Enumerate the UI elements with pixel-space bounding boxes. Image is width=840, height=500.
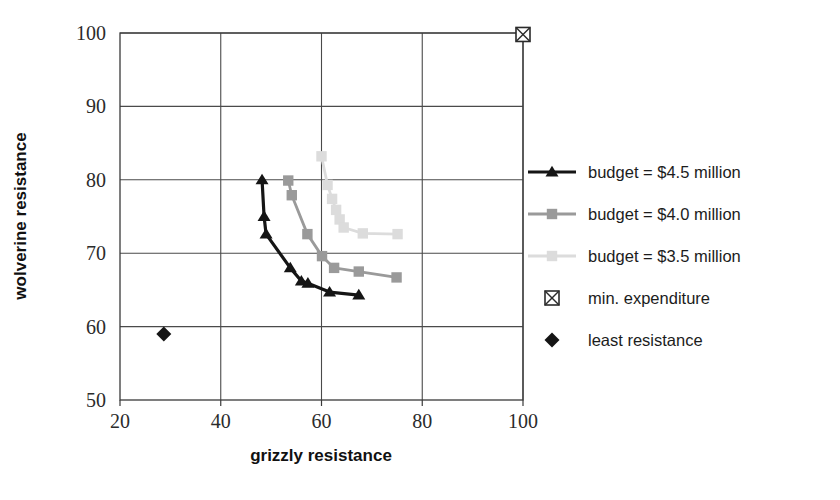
legend-item-label: least resistance	[588, 331, 703, 349]
y-axis-tick-labels: 5060708090100	[76, 22, 106, 411]
chart-figure: 5060708090100 20406080100 grizzly resist…	[0, 0, 840, 500]
data-point-diamond	[545, 333, 560, 348]
legend-item-2: budget = $4.0 million	[528, 205, 741, 223]
data-point-square	[338, 222, 348, 232]
data-point-square	[317, 251, 327, 261]
legend-item-4: min. expenditure	[545, 289, 710, 307]
legend-item-label: budget = $4.5 million	[588, 163, 741, 181]
y-tick-label: 90	[86, 95, 106, 117]
data-point-triangle	[256, 174, 269, 185]
legend-item-label: min. expenditure	[588, 289, 710, 307]
legend-item-3: budget = $3.5 million	[528, 247, 741, 265]
data-point-square	[283, 175, 293, 185]
legend-item-label: budget = $4.0 million	[588, 205, 741, 223]
data-point-square	[327, 194, 337, 204]
data-point-square	[316, 151, 326, 161]
data-point-diamond	[156, 326, 171, 341]
legend-item-label: budget = $3.5 million	[588, 247, 741, 265]
x-tick-label: 20	[110, 410, 130, 432]
legend-item-1: budget = $4.5 million	[528, 163, 741, 181]
y-tick-label: 70	[86, 242, 106, 264]
x-axis-title: grizzly resistance	[250, 446, 392, 465]
chart-legend: budget = $4.5 millionbudget = $4.0 milli…	[528, 163, 741, 349]
data-point-square	[547, 209, 557, 219]
data-point-square	[391, 272, 401, 282]
x-tick-label: 100	[508, 410, 538, 432]
series-3	[316, 151, 402, 239]
data-point-crossed-square	[516, 27, 530, 41]
data-point-square	[392, 229, 402, 239]
y-tick-label: 100	[76, 22, 106, 44]
x-axis-tick-labels: 20406080100	[110, 410, 538, 432]
data-series-layer	[256, 151, 403, 299]
y-axis-title: wolverine resistance	[11, 132, 30, 300]
gridlines	[120, 33, 523, 400]
x-tick-label: 60	[312, 410, 332, 432]
x-axis-tick-marks	[120, 400, 523, 406]
x-tick-label: 80	[412, 410, 432, 432]
data-point-square	[331, 205, 341, 215]
y-tick-label: 50	[86, 389, 106, 411]
data-point-crossed-square	[545, 291, 559, 305]
data-point-square	[354, 266, 364, 276]
data-point-square	[329, 263, 339, 273]
data-point-square	[322, 180, 332, 190]
scatter-plot: 5060708090100 20406080100 grizzly resist…	[0, 0, 840, 500]
legend-item-5: least resistance	[545, 331, 703, 349]
y-tick-label: 80	[86, 169, 106, 191]
data-point-square	[358, 228, 368, 238]
data-point-triangle	[258, 210, 271, 221]
x-tick-label: 40	[211, 410, 231, 432]
data-point-triangle	[260, 228, 273, 239]
data-point-square	[287, 190, 297, 200]
data-point-square	[547, 251, 557, 261]
data-point-square	[302, 229, 312, 239]
y-tick-label: 60	[86, 316, 106, 338]
